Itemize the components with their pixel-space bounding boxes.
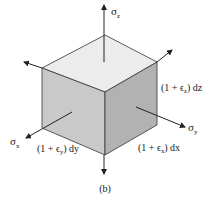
sigma-y-back-arrow xyxy=(157,50,172,62)
sigma-y-label: σy xyxy=(188,121,198,136)
dim-y-label: (1 + ϵy) dy xyxy=(37,143,79,155)
sigma-z-label: σz xyxy=(111,5,120,20)
dim-x-label: (1 + ϵx) dx xyxy=(138,142,180,154)
figure-caption: (b) xyxy=(99,183,111,195)
sigma-x-back-arrow xyxy=(24,62,42,68)
sigma-x-label: σx xyxy=(10,135,20,150)
dim-z-label: (1 + ϵz) dz xyxy=(161,82,203,94)
stress-element-diagram: σz σx σy (1 + ϵz) dz (1 + ϵy) dy (1 + ϵx… xyxy=(0,0,215,202)
